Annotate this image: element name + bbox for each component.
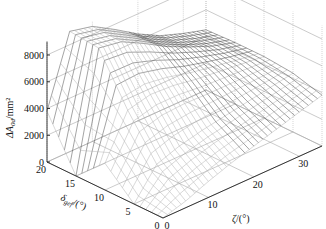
z-axis-label: ΔA0d/mm²	[4, 98, 17, 139]
delta-tick-label: 20	[36, 164, 46, 175]
delta-tick-label: 5	[126, 206, 131, 217]
z-tick-label: 4000	[24, 103, 44, 114]
zeta-tick-label: 0	[165, 220, 170, 229]
surface-mesh	[47, 26, 322, 218]
delta-tick-label: 15	[65, 178, 75, 189]
zeta-tick-label: 30	[298, 158, 308, 169]
delta-tick-label: 10	[94, 192, 104, 203]
surface-chart: 02000400060008000 05101520 0102030 ΔA0d/…	[0, 0, 326, 229]
zeta-axis-label: ζ/(°)	[232, 213, 250, 225]
z-tick-label: 8000	[24, 50, 44, 61]
delta-axis-label: δgef/(°)	[59, 192, 89, 214]
zeta-tick-label: 10	[207, 199, 217, 210]
delta-tick-label: 0	[155, 220, 160, 229]
z-tick-label: 6000	[24, 76, 44, 87]
grid-lines	[47, 0, 322, 218]
z-axis-ticks: 02000400060008000	[24, 50, 50, 168]
z-tick-label: 2000	[24, 130, 44, 141]
zeta-tick-label: 20	[253, 179, 263, 190]
